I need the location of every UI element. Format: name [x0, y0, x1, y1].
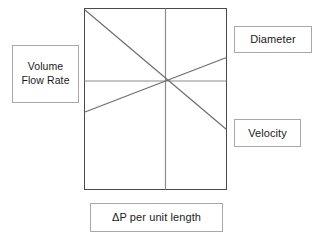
diagram-canvas: Volume Flow Rate Diameter Velocity ΔP pe…: [0, 0, 323, 247]
y-axis-label-text: Volume Flow Rate: [21, 60, 69, 88]
velocity-label-box: Velocity: [234, 119, 301, 147]
x-axis-label-box: ΔP per unit length: [90, 203, 223, 232]
diameter-label-text: Diameter: [250, 32, 295, 47]
velocity-label-text: Velocity: [248, 126, 287, 141]
y-axis-label-box: Volume Flow Rate: [12, 45, 79, 103]
plot-frame: [84, 8, 227, 190]
diameter-label-box: Diameter: [234, 26, 312, 53]
x-axis-label-text: ΔP per unit length: [112, 210, 201, 225]
